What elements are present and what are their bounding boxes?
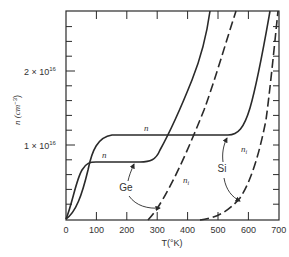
label-n-ge: n [102, 150, 107, 160]
label-n-si: n [144, 123, 149, 133]
x-tick-label: 0 [63, 225, 68, 235]
x-tick-label: 200 [119, 225, 134, 235]
arrow-ge-to-ni [129, 196, 160, 208]
arrow-si-to-n [223, 138, 227, 162]
y-axis-title: n (cm−3) [12, 95, 22, 125]
x-tick-label: 700 [271, 225, 286, 235]
label-ge: Ge [119, 182, 133, 193]
curve-n-ge [66, 11, 210, 219]
curve-n-si [66, 11, 270, 219]
x-tick-label: 300 [150, 225, 165, 235]
arrow-ge-to-n [128, 164, 134, 181]
x-tick-label: 400 [180, 225, 195, 235]
label-ni-ge: ni [183, 175, 190, 186]
label-si: Si [218, 163, 227, 174]
y-tick-label-2e16: 2 × 1016 [24, 66, 57, 77]
x-tick-label: 500 [210, 225, 225, 235]
x-axis-title: T(°K) [161, 238, 182, 248]
arrow-si-to-ni [224, 178, 240, 201]
y-tick-label-1e16: 1 × 1016 [24, 140, 57, 151]
x-tick-label: 100 [89, 225, 104, 235]
x-tick-labels: 0 100 200 300 400 500 600 700 [63, 225, 286, 235]
curve-ni-si [200, 11, 278, 220]
label-ni-si: ni [241, 144, 248, 155]
chart: 0 100 200 300 400 500 600 700 T(°K) 2 × … [0, 0, 289, 257]
x-tick-label: 600 [241, 225, 256, 235]
curve-ni-ge [148, 11, 236, 220]
